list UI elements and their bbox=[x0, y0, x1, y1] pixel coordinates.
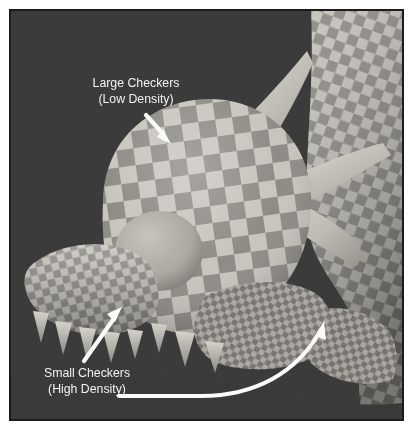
annotation-overlay: Large Checkers (Low Density) Small Check… bbox=[11, 11, 402, 419]
annotation-small-checkers-line2: (High Density) bbox=[48, 382, 126, 396]
arrow-small-checkers-straight-icon bbox=[84, 307, 122, 361]
arrow-small-checkers-curved-icon bbox=[119, 321, 326, 396]
annotation-small-checkers-line1: Small Checkers bbox=[44, 366, 130, 380]
arrow-large-checkers-icon bbox=[146, 115, 171, 144]
annotation-large-checkers-line1: Large Checkers bbox=[93, 76, 180, 90]
render-frame: Large Checkers (Low Density) Small Check… bbox=[9, 9, 404, 421]
annotation-large-checkers-line2: (Low Density) bbox=[98, 92, 173, 106]
figure-container: Large Checkers (Low Density) Small Check… bbox=[0, 0, 413, 441]
